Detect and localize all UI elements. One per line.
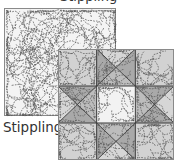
stipple-stitch-line bbox=[8, 58, 23, 95]
figure-title-cutoff: Stippling bbox=[60, 0, 117, 4]
ohio-star-quilt-block bbox=[58, 49, 174, 160]
stipple-stitch-line bbox=[6, 11, 12, 29]
stipple-stitch-line bbox=[7, 37, 23, 54]
stipple-stitch-line bbox=[40, 11, 56, 12]
star-block-drawing bbox=[58, 49, 174, 160]
stipple-stitch-line bbox=[92, 14, 111, 39]
stippling-label: Stippling bbox=[3, 119, 62, 135]
stipple-stitch-line bbox=[70, 11, 101, 25]
stipple-stitch-line bbox=[88, 27, 109, 45]
stipple-stitch-line bbox=[7, 77, 16, 107]
stipple-stitch-line bbox=[7, 12, 12, 36]
stipple-stitch-line bbox=[12, 84, 28, 107]
stipple-stitch-line bbox=[6, 11, 19, 27]
corner-square bbox=[135, 123, 174, 160]
stipple-stitch-line bbox=[100, 17, 116, 28]
